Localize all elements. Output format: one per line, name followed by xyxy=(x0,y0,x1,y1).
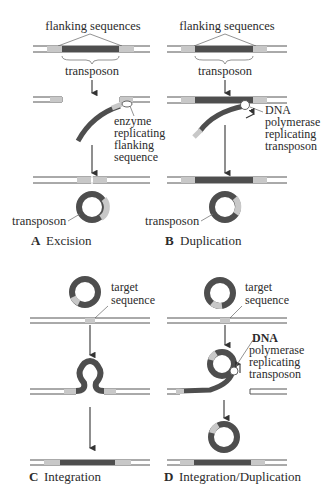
panel-title-d: Integration/Duplication xyxy=(179,469,302,484)
omega-transposon xyxy=(76,361,104,391)
transposon-label: transposon xyxy=(198,64,253,78)
dna-with-transposon xyxy=(33,46,150,52)
flanking-left xyxy=(181,177,195,183)
flanking-sequence-left xyxy=(47,46,62,52)
flanking-left xyxy=(64,389,76,394)
target-label-line2: sequence xyxy=(245,293,289,307)
polymerase-label-line4: transposon xyxy=(265,139,317,153)
transposon-segment xyxy=(195,46,253,52)
panel-letter-d: D xyxy=(164,469,173,484)
dna-polymerase-icon xyxy=(230,367,238,375)
dna-fragment-right xyxy=(250,389,287,394)
flanking-arc xyxy=(211,353,216,360)
transposition-diagram: flanking sequences transposon enzyme rep… xyxy=(0,0,334,501)
polymerase-label-line4: transposon xyxy=(249,367,301,381)
direction-arrow xyxy=(246,114,254,118)
integrated-dna xyxy=(30,460,150,465)
target-label-line1: target xyxy=(111,280,139,294)
panel-d-integration-duplication: target sequence DNA polymerase replicati… xyxy=(164,280,304,484)
transposon-brace xyxy=(195,56,253,64)
dna-after-duplication xyxy=(167,177,287,183)
transposon-label: transposon xyxy=(65,64,120,78)
flanking-leader xyxy=(58,34,122,46)
dna-with-transposon xyxy=(167,46,287,52)
target-leader xyxy=(95,306,108,318)
flanking-right xyxy=(115,460,131,465)
flanking-arc xyxy=(212,425,218,433)
panel-letter-a: A xyxy=(31,233,41,248)
transposon-segment xyxy=(195,177,253,183)
flanking-sequences-label: flanking sequences xyxy=(179,19,275,33)
panel-c-integration: target sequence C Integration xyxy=(29,279,155,484)
replicated-transposon-strand xyxy=(180,369,233,391)
transposon-circle xyxy=(72,279,98,305)
flanking-left xyxy=(180,460,194,465)
flanking-left xyxy=(77,177,91,183)
excised-flanking-end xyxy=(112,104,122,108)
target-sequence xyxy=(85,318,95,323)
transposon-circle-label: transposon xyxy=(145,214,200,228)
transposon-ring xyxy=(212,194,238,220)
panel-title-a: Excision xyxy=(46,233,92,248)
panel-letter-c: C xyxy=(29,469,38,484)
new-transposon-strand xyxy=(200,106,244,131)
transposon-circle-label: transposon xyxy=(12,214,67,228)
transposon-circle xyxy=(212,194,238,220)
flanking-sequence-left xyxy=(181,46,195,52)
panel-a-excision: flanking sequences transposon enzyme rep… xyxy=(12,19,165,248)
circle-leader xyxy=(201,214,213,221)
new-flanking-end xyxy=(194,130,201,137)
flanking-right xyxy=(104,389,116,394)
target-label-line2: sequence xyxy=(111,293,155,307)
transposon-circle xyxy=(79,194,107,220)
flanking-left xyxy=(176,389,184,394)
transposon-brace xyxy=(62,56,119,64)
panel-title-b: Duplication xyxy=(180,233,242,248)
flanking-sequences-label: flanking sequences xyxy=(45,19,141,33)
transposon-circle-copy xyxy=(211,424,237,450)
flanking-right xyxy=(253,177,267,183)
flanking-sequence-right xyxy=(119,46,134,52)
panel-letter-b: B xyxy=(165,233,174,248)
rejoined-dna xyxy=(33,175,150,185)
flanking-arc xyxy=(73,297,79,303)
transposon-ring xyxy=(207,280,233,306)
flanking-leader xyxy=(194,34,256,46)
flanking-left xyxy=(181,97,195,103)
flanking-left-cut xyxy=(50,97,62,102)
panel-b-duplication: flanking sequences transposon DNA polyme… xyxy=(145,19,320,248)
dna-polymerase-icon xyxy=(241,101,250,110)
enzyme-label-line4: sequence xyxy=(114,150,158,164)
target-leader xyxy=(230,306,242,318)
target-dna xyxy=(167,318,287,323)
target-sequence xyxy=(220,318,230,323)
transposon-segment xyxy=(194,460,251,465)
transposon-circle xyxy=(207,280,233,306)
cut-dna xyxy=(33,97,150,102)
flanking-left xyxy=(44,460,60,465)
circle-leader xyxy=(68,214,80,221)
target-label-line1: target xyxy=(245,280,273,294)
panel-title-c: Integration xyxy=(44,469,102,484)
integrated-dna xyxy=(167,460,287,465)
transposon-segment xyxy=(60,460,115,465)
flanking-arc xyxy=(212,303,222,306)
transposon-segment xyxy=(62,46,119,52)
flanking-right xyxy=(93,177,107,183)
flanking-arc xyxy=(235,198,238,214)
flanking-right xyxy=(251,460,265,465)
flanking-sequence-right xyxy=(253,46,267,52)
polymerase-leader xyxy=(250,107,263,112)
target-dna xyxy=(30,318,150,323)
integrating-dna xyxy=(30,361,150,394)
enzyme-icon xyxy=(122,101,132,107)
